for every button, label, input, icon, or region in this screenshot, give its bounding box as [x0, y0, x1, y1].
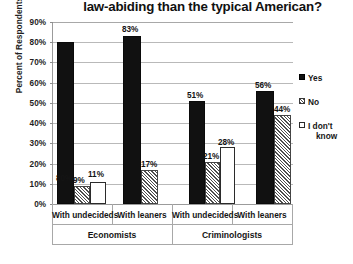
y-tick-label-0: 0%: [34, 200, 46, 209]
y-tick-30: [50, 143, 53, 144]
bar-yes-economists-leaners[interactable]: [123, 36, 141, 204]
bar-no-criminologists-leaners[interactable]: [274, 115, 291, 204]
bar-no-economists-leaners[interactable]: [141, 170, 158, 204]
black-square-icon: [299, 74, 305, 80]
legend-label-yes: Yes: [308, 73, 353, 83]
y-tick-label-30: 30%: [30, 139, 46, 148]
group-axis-divider: [52, 244, 293, 245]
y-tick-60: [50, 83, 53, 84]
y-tick-label-80: 80%: [30, 38, 46, 47]
bar-label-yes-economists-leaners: 83%: [122, 25, 138, 34]
bar-label-yes-criminologists-undecideds: 51%: [187, 91, 203, 100]
y-tick-80: [50, 42, 53, 43]
hatched-square-icon: [299, 98, 305, 104]
group-tick-2: [292, 224, 293, 244]
y-tick-label-90: 90%: [30, 18, 46, 27]
bar-label-yes-criminologists-leaners: 56%: [255, 81, 271, 90]
y-tick-label-50: 50%: [30, 98, 46, 107]
y-tick-label-60: 60%: [30, 78, 46, 87]
bar-label-no-economists-leaners: 17%: [141, 160, 157, 169]
bar-label-idk-economists-undecideds: 11%: [88, 170, 104, 179]
y-tick-70: [50, 62, 53, 63]
y-tick-90: [50, 22, 53, 23]
y-tick-10: [50, 184, 53, 185]
category-label-economists-undecideds: With undecideds: [52, 210, 112, 220]
y-tick-label-70: 70%: [30, 58, 46, 67]
plot-area: 80% 9% 11% 83% 17% 51% 21% 28% 56% 44%: [52, 22, 293, 205]
group-label-criminologists: Criminologists: [172, 230, 292, 240]
chart-container: law-abiding than the typical American? P…: [0, 0, 353, 264]
y-tick-50: [50, 103, 53, 104]
legend-item-no[interactable]: No: [299, 97, 353, 108]
bar-no-criminologists-undecideds[interactable]: [205, 162, 220, 205]
chart-title: law-abiding than the typical American?: [52, 0, 353, 14]
y-tick-label-10: 10%: [30, 179, 46, 188]
legend-item-i-dont-know[interactable]: I don't know: [299, 121, 353, 141]
bar-label-no-criminologists-undecideds: 21%: [203, 152, 219, 161]
legend-label-i-dont-know-line2: know: [316, 131, 353, 141]
category-label-criminologists-undecideds: With undecideds: [172, 210, 232, 220]
chart-legend: Yes No I don't know: [299, 73, 353, 154]
bar-label-yes-economists-undecideds: 80%: [56, 174, 72, 183]
bar-idk-economists-undecideds[interactable]: [90, 182, 106, 204]
y-tick-40: [50, 123, 53, 124]
y-axis-tick-labels: 90% 80% 70% 60% 50% 40% 30% 20% 10% 0%: [0, 22, 50, 204]
bar-label-idk-criminologists-undecideds: 28%: [218, 138, 234, 147]
gridline-70: [53, 62, 293, 63]
bar-label-no-economists-undecideds: 9%: [73, 176, 85, 185]
bar-yes-criminologists-leaners[interactable]: [256, 91, 274, 204]
bar-label-no-criminologists-leaners: 44%: [274, 105, 290, 114]
y-tick-20: [50, 164, 53, 165]
category-tick-4: [292, 204, 293, 224]
y-tick-label-20: 20%: [30, 159, 46, 168]
legend-item-yes[interactable]: Yes: [299, 73, 353, 84]
y-tick-label-40: 40%: [30, 119, 46, 128]
legend-label-i-dont-know-line1: I don't: [308, 121, 333, 131]
category-label-criminologists-leaners: With leaners: [232, 210, 292, 220]
legend-label-i-dont-know: I don't know: [308, 121, 353, 141]
bar-idk-criminologists-undecideds[interactable]: [220, 147, 235, 204]
bar-no-economists-undecideds[interactable]: [74, 186, 90, 204]
gridline-90: [53, 22, 293, 23]
legend-label-no: No: [308, 97, 353, 107]
gridline-80: [53, 42, 293, 43]
group-label-economists: Economists: [52, 230, 172, 240]
white-square-icon: [299, 122, 305, 128]
category-label-economists-leaners: With leaners: [112, 210, 172, 220]
